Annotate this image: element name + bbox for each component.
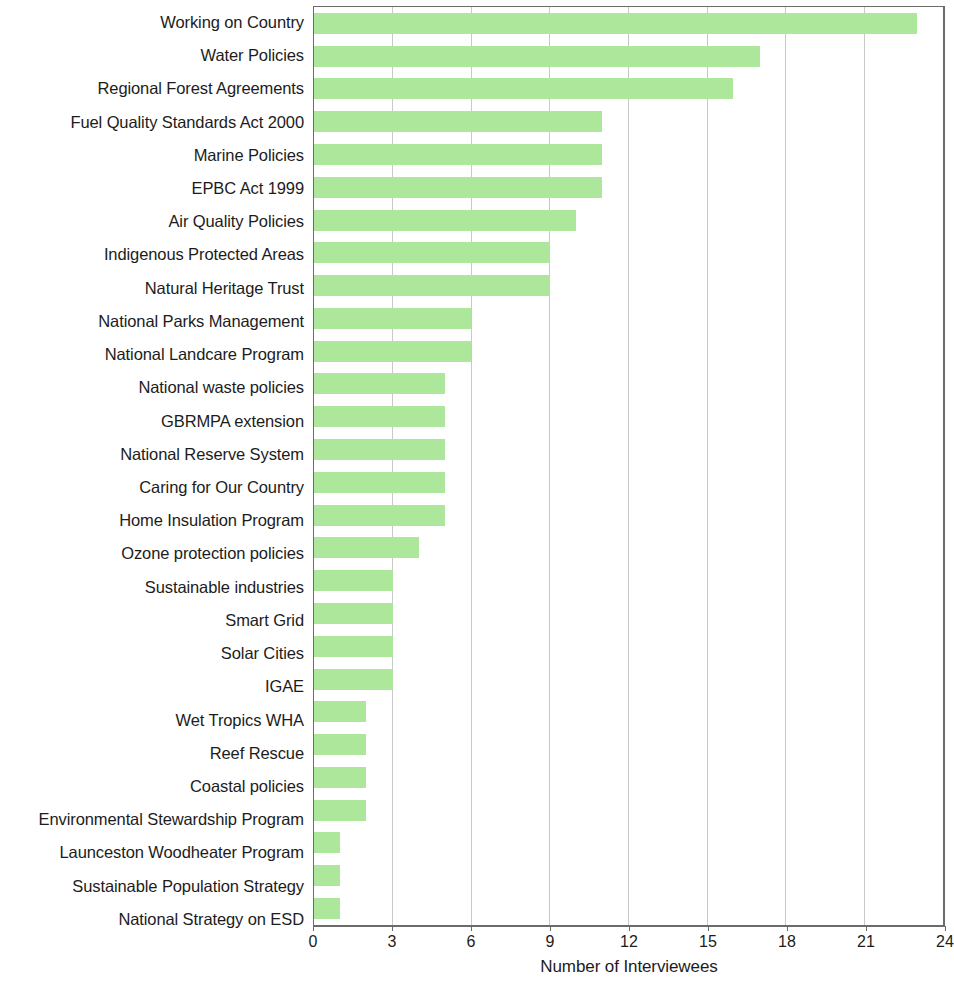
- y-axis-label: Natural Heritage Trust: [0, 272, 313, 305]
- bar: [314, 275, 550, 296]
- x-axis-tick-label: 24: [936, 933, 954, 951]
- bar: [314, 177, 602, 198]
- bar: [314, 341, 471, 362]
- x-axis-tick-label: 9: [546, 933, 555, 951]
- x-axis-tick: [708, 926, 709, 931]
- y-axis-label: Solar Cities: [0, 637, 313, 670]
- bar-row: [314, 105, 943, 138]
- bar-row: [314, 335, 943, 368]
- bar: [314, 505, 445, 526]
- x-axis-tick: [629, 926, 630, 931]
- bar: [314, 898, 340, 919]
- bar-row: [314, 236, 943, 269]
- y-axis-label: National Strategy on ESD: [0, 903, 313, 936]
- bar: [314, 472, 445, 493]
- x-axis: 03691215182124: [313, 926, 945, 956]
- y-axis-label: Sustainable Population Strategy: [0, 870, 313, 903]
- x-axis-tick: [787, 926, 788, 931]
- bar-row: [314, 368, 943, 401]
- y-axis-label: Launceston Woodheater Program: [0, 836, 313, 869]
- bar-row: [314, 73, 943, 106]
- bar-row: [314, 564, 943, 597]
- y-axis-label: IGAE: [0, 670, 313, 703]
- bar-row: [314, 466, 943, 499]
- y-axis-label: National Reserve System: [0, 438, 313, 471]
- x-axis-tick: [945, 926, 946, 931]
- bar-row: [314, 499, 943, 532]
- x-axis-tick: [471, 926, 472, 931]
- bar: [314, 800, 366, 821]
- bar: [314, 767, 366, 788]
- x-axis-tick-label: 18: [778, 933, 796, 951]
- bar-row: [314, 171, 943, 204]
- x-axis-tick-label: 0: [309, 933, 318, 951]
- bar: [314, 865, 340, 886]
- bar: [314, 701, 366, 722]
- bar-row: [314, 859, 943, 892]
- bar: [314, 13, 917, 34]
- bar-row: [314, 269, 943, 302]
- y-axis-category-labels: Working on CountryWater PoliciesRegional…: [0, 0, 313, 936]
- bar: [314, 439, 445, 460]
- y-axis-label: Water Policies: [0, 39, 313, 72]
- y-axis-label: Sustainable industries: [0, 571, 313, 604]
- x-axis-tick-label: 3: [388, 933, 397, 951]
- bar-row: [314, 827, 943, 860]
- bar-row: [314, 204, 943, 237]
- y-axis-label: Working on Country: [0, 6, 313, 39]
- y-axis-label: Smart Grid: [0, 604, 313, 637]
- y-axis-label: Regional Forest Agreements: [0, 72, 313, 105]
- bar-series: [314, 7, 943, 925]
- x-axis-tick: [866, 926, 867, 931]
- bar: [314, 636, 393, 657]
- bar: [314, 570, 393, 591]
- bar: [314, 537, 419, 558]
- bar-row: [314, 7, 943, 40]
- y-axis-label: Coastal policies: [0, 770, 313, 803]
- bar-row: [314, 597, 943, 630]
- y-axis-label: Home Insulation Program: [0, 504, 313, 537]
- x-axis-tick-label: 12: [620, 933, 638, 951]
- bar-row: [314, 400, 943, 433]
- y-axis-label: EPBC Act 1999: [0, 172, 313, 205]
- bar: [314, 603, 393, 624]
- x-axis-tick-label: 6: [467, 933, 476, 951]
- x-axis-tick-label: 15: [699, 933, 717, 951]
- bar-row: [314, 695, 943, 728]
- y-axis-label: GBRMPA extension: [0, 405, 313, 438]
- y-axis-label: Ozone protection policies: [0, 538, 313, 571]
- bar-row: [314, 40, 943, 73]
- bar: [314, 373, 445, 394]
- bar: [314, 308, 471, 329]
- y-axis-label: National waste policies: [0, 371, 313, 404]
- y-axis-label: National Parks Management: [0, 305, 313, 338]
- bar: [314, 111, 602, 132]
- y-axis-label: Fuel Quality Standards Act 2000: [0, 106, 313, 139]
- bar: [314, 78, 733, 99]
- y-axis-label: Caring for Our Country: [0, 471, 313, 504]
- y-axis-label: Environmental Stewardship Program: [0, 803, 313, 836]
- bar-row: [314, 302, 943, 335]
- bar: [314, 734, 366, 755]
- x-axis-tick: [313, 926, 314, 931]
- bar-row: [314, 532, 943, 565]
- bar: [314, 669, 393, 690]
- y-axis-label: National Landcare Program: [0, 338, 313, 371]
- bar-row: [314, 794, 943, 827]
- bar: [314, 210, 576, 231]
- x-axis-tick-label: 21: [857, 933, 875, 951]
- plot-area: [313, 6, 945, 926]
- bar-row: [314, 630, 943, 663]
- x-axis-title: Number of Interviewees: [313, 957, 945, 977]
- bar-row: [314, 663, 943, 696]
- y-axis-label: Wet Tropics WHA: [0, 704, 313, 737]
- bar: [314, 406, 445, 427]
- chart-body: Working on CountryWater PoliciesRegional…: [0, 0, 952, 936]
- y-axis-label: Reef Rescue: [0, 737, 313, 770]
- bar-row: [314, 138, 943, 171]
- x-axis-tick: [550, 926, 551, 931]
- y-axis-label: Marine Policies: [0, 139, 313, 172]
- bar-row: [314, 761, 943, 794]
- bar: [314, 832, 340, 853]
